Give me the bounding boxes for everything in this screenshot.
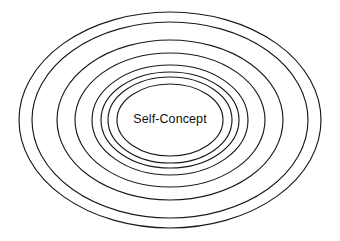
center-label: Self-Concept <box>133 112 207 126</box>
concentric-ellipse-diagram: Self-Concept <box>0 0 340 241</box>
diagram-canvas: Self-Concept <box>0 0 340 241</box>
